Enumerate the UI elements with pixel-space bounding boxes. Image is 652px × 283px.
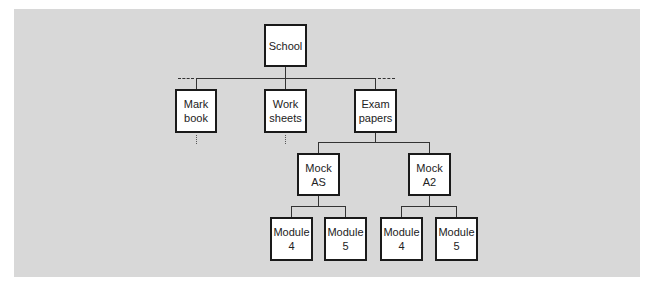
node-label-line2: sheets [269,111,301,125]
connector-exam-down [375,132,376,142]
node-label-line1: Module [383,225,419,239]
node-mock-as-module-5: Module 5 [324,217,367,261]
node-label-line1: Module [438,225,474,239]
node-label-line2: 5 [342,239,348,253]
node-exam-papers: Exam papers [354,89,397,133]
node-label-line1: Mock [416,161,442,175]
node-label-line2: 5 [453,239,459,253]
connector-level2-bar [318,142,430,143]
connector-mock-as [318,142,319,153]
node-label-line2: AS [311,175,326,189]
node-mark-book: Mark book [175,89,217,133]
connector-a2-module-5 [456,206,457,217]
node-mock-as: Mock AS [297,153,340,196]
node-label-line2: 4 [398,239,404,253]
node-label-line1: Mock [305,161,331,175]
node-mock-a2: Mock A2 [408,153,451,196]
continuation-dots-work-sheets [285,135,286,144]
connector-level1-bar [196,78,376,79]
connector-exam-papers [375,78,376,89]
connector-as-module-5 [345,206,346,217]
connector-mock-a2 [429,142,430,153]
node-school: School [264,24,307,67]
node-label-line1: Module [273,225,309,239]
node-label-line1: Module [327,225,363,239]
connector-school-down [285,66,286,78]
node-mock-a2-module-4: Module 4 [380,217,423,261]
node-label-line1: Mark [184,97,208,111]
connector-as-modules-bar [291,206,346,207]
node-label-line2: papers [359,111,393,125]
node-label: School [269,39,303,53]
connector-work-sheets [285,78,286,89]
connector-mock-as-down [318,195,319,206]
continuation-dashes-left [178,78,194,79]
node-label-line2: A2 [423,175,436,189]
continuation-dots-mark-book [196,135,197,144]
node-label-line2: 4 [288,239,294,253]
continuation-dashes-right [378,78,395,79]
connector-mock-a2-down [429,195,430,206]
node-mock-a2-module-5: Module 5 [435,217,478,261]
connector-mark-book [196,78,197,89]
node-label-line1: Exam [361,97,389,111]
connector-a2-modules-bar [401,206,457,207]
connector-a2-module-4 [401,206,402,217]
connector-as-module-4 [291,206,292,217]
node-label-line2: book [184,111,208,125]
node-mock-as-module-4: Module 4 [270,217,313,261]
node-label-line1: Work [273,97,298,111]
node-work-sheets: Work sheets [264,89,307,133]
